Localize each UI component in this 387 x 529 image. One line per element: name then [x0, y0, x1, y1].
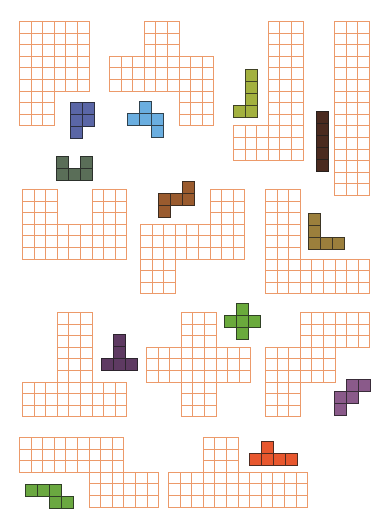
board-cell: [296, 495, 309, 508]
board-cell: [291, 149, 304, 162]
board-cell: [163, 282, 176, 295]
piece-cell[interactable]: [236, 327, 249, 340]
piece-cell[interactable]: [334, 403, 347, 416]
board-cell: [115, 247, 128, 260]
piece-cell[interactable]: [61, 496, 74, 509]
board-cell: [42, 114, 55, 127]
puzzle-board: [0, 0, 387, 529]
board-cell: [202, 114, 215, 127]
piece-cell[interactable]: [70, 126, 83, 139]
board-cell: [358, 335, 371, 348]
piece-cell[interactable]: [182, 193, 195, 206]
piece-cell[interactable]: [346, 391, 359, 404]
board-cell: [288, 405, 301, 418]
board-cell: [357, 183, 370, 196]
piece-cell[interactable]: [245, 105, 258, 118]
board-cell: [358, 282, 371, 295]
piece-cell[interactable]: [358, 379, 371, 392]
piece-cell[interactable]: [80, 168, 93, 181]
board-cell: [233, 247, 246, 260]
piece-cell[interactable]: [151, 125, 164, 138]
board-cell: [77, 79, 90, 92]
piece-cell[interactable]: [248, 315, 261, 328]
piece-cell[interactable]: [82, 114, 95, 127]
board-cell: [115, 405, 128, 418]
board-cell: [239, 370, 252, 383]
piece-cell[interactable]: [316, 159, 329, 172]
piece-cell[interactable]: [285, 453, 298, 466]
piece-cell[interactable]: [125, 358, 138, 371]
piece-cell[interactable]: [332, 237, 345, 250]
piece-cell[interactable]: [158, 205, 171, 218]
board-cell: [147, 495, 160, 508]
board-cell: [204, 405, 217, 418]
board-cell: [323, 370, 336, 383]
